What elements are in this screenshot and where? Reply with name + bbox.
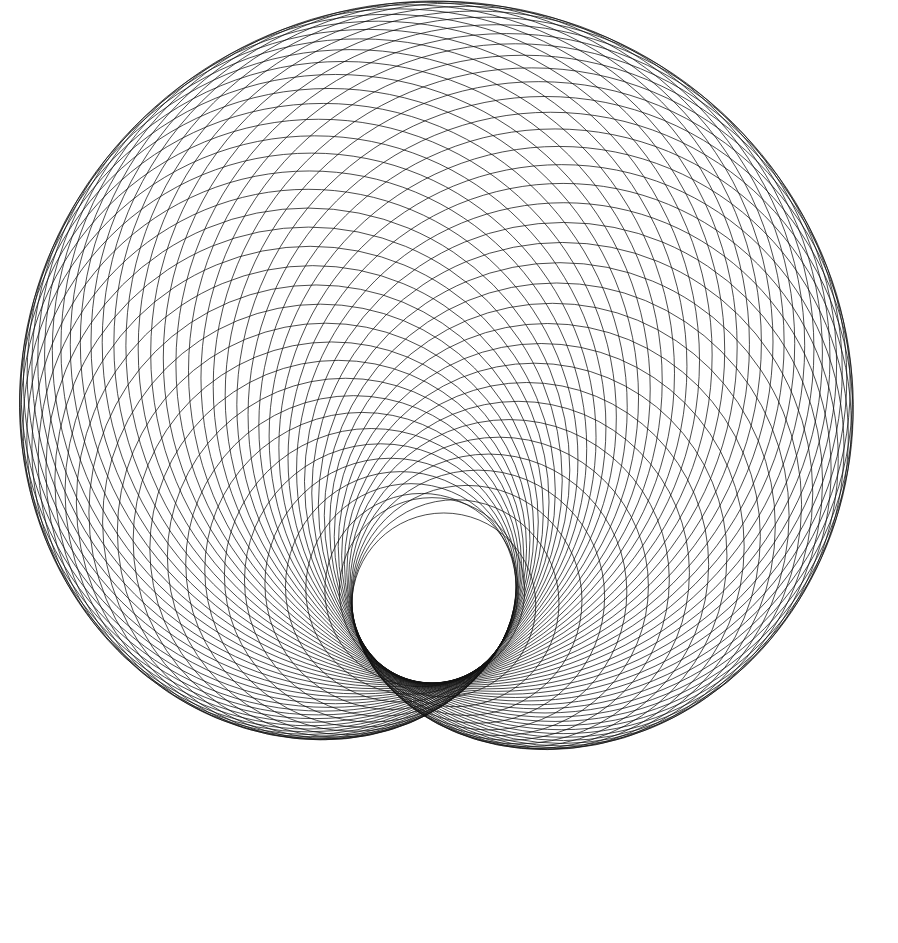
pattern-circle — [126, 6, 805, 685]
pattern-circle — [38, 29, 700, 691]
pattern-circle — [325, 493, 518, 686]
circle-family — [20, 1, 854, 750]
pattern-circle — [91, 1, 773, 683]
pattern-circle — [32, 39, 687, 694]
pattern-circle — [45, 21, 713, 689]
pattern-circle — [151, 17, 823, 689]
spirograph-canvas — [0, 0, 898, 943]
pattern-circle — [269, 146, 848, 725]
pattern-circle — [70, 5, 749, 684]
pattern-circle — [288, 183, 838, 733]
pattern-circle — [46, 208, 570, 732]
pattern-circle — [65, 246, 555, 736]
pattern-circle — [138, 11, 814, 687]
